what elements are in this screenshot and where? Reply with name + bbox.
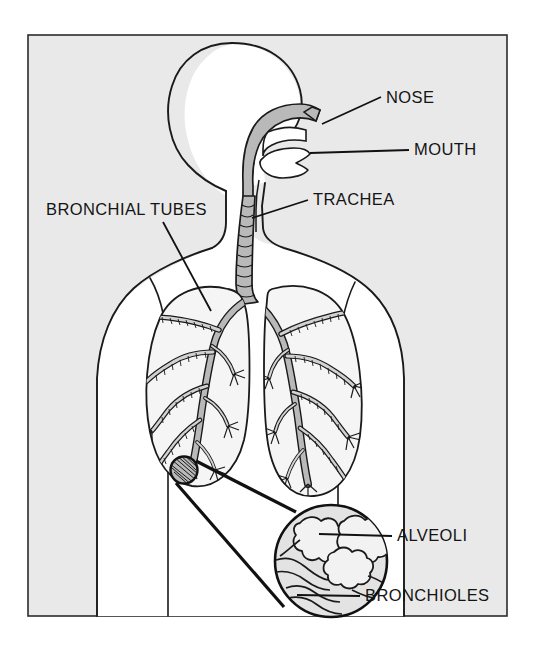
label-alveoli: ALVEOLI <box>397 526 467 544</box>
diagram-canvas: NOSE MOUTH TRACHEA BRONCHIAL TUBES ALVEO… <box>0 0 533 648</box>
label-bronchial-tubes: BRONCHIAL TUBES <box>46 200 207 218</box>
leader-bronchioles <box>297 595 360 596</box>
label-nose: NOSE <box>386 88 434 106</box>
label-trachea: TRACHEA <box>313 190 395 208</box>
label-mouth: MOUTH <box>414 140 477 158</box>
label-bronchioles: BRONCHIOLES <box>365 586 490 604</box>
respiratory-system-figure: NOSE MOUTH TRACHEA BRONCHIAL TUBES ALVEO… <box>0 0 533 648</box>
